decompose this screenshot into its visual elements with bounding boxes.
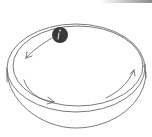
dish-wall-right [145, 64, 146, 78]
dish-drawing [0, 0, 152, 137]
motion-arrow-right [106, 70, 135, 98]
dish-rim-inner [13, 26, 143, 106]
motion-arrow-upper-left [26, 38, 52, 58]
ball [52, 27, 68, 43]
illustration-canvas [0, 0, 152, 137]
dish-rim-outer [7, 24, 145, 112]
